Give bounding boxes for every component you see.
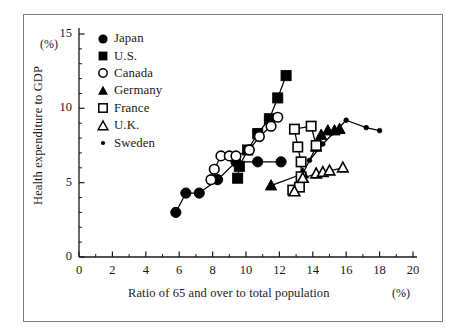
y-tick-label: 10	[46, 100, 72, 115]
legend-item-uk: U.K.	[92, 117, 222, 134]
data-point-sweden	[344, 118, 349, 123]
legend-marker-open-circle-icon	[92, 66, 114, 80]
data-point-japan	[276, 157, 286, 167]
legend-marker-open-triangle-icon	[92, 119, 114, 133]
legend-marker-filled-triangle-icon	[92, 84, 114, 98]
series-path	[176, 162, 281, 213]
data-point-japan	[181, 188, 191, 198]
x-tick-label: 12	[267, 263, 291, 278]
data-point-france	[293, 142, 302, 151]
data-point-uk	[338, 162, 349, 172]
data-point-us	[234, 161, 244, 171]
data-point-canada	[255, 132, 265, 142]
data-point-france	[296, 157, 305, 166]
data-point-canada	[209, 164, 219, 174]
data-point-japan	[171, 207, 181, 217]
data-point-canada	[245, 145, 255, 155]
x-axis-unit: (%)	[392, 286, 410, 301]
x-tick-label: 6	[167, 263, 191, 278]
legend-label: Canada	[114, 67, 153, 80]
data-point-sweden	[307, 158, 312, 163]
figure: Health expenditure to GDP (%) Ratio of 6…	[0, 0, 463, 335]
legend-label: Germany	[114, 84, 162, 97]
x-tick-label: 18	[368, 263, 392, 278]
data-point-us	[281, 71, 291, 81]
legend-marker-small-dot-icon	[92, 136, 114, 150]
data-point-france	[306, 121, 315, 130]
data-point-canada	[231, 151, 241, 161]
legend-label: U.K.	[114, 119, 139, 132]
data-point-france	[290, 124, 299, 133]
chart-legend: JapanU.S.CanadaGermanyFranceU.K.Sweden	[92, 30, 222, 152]
x-tick-label: 0	[67, 263, 91, 278]
data-point-france	[311, 141, 320, 150]
legend-label: France	[114, 102, 149, 115]
y-tick-label: 0	[46, 249, 72, 264]
legend-item-japan: Japan	[92, 30, 222, 47]
data-point-sweden	[377, 128, 382, 133]
legend-marker-open-square-icon	[92, 101, 114, 115]
x-tick-label: 14	[301, 263, 325, 278]
legend-item-sweden: Sweden	[92, 134, 222, 151]
legend-item-canada: Canada	[92, 65, 222, 82]
x-tick-label: 10	[234, 263, 258, 278]
series-line-japan	[176, 162, 281, 213]
legend-item-germany: Germany	[92, 82, 222, 99]
x-tick-label: 16	[334, 263, 358, 278]
x-tick-label: 20	[401, 263, 425, 278]
data-point-japan	[194, 188, 204, 198]
data-point-canada	[273, 112, 283, 122]
data-point-us	[273, 93, 283, 103]
legend-marker-filled-circle-icon	[92, 32, 114, 46]
legend-label: Japan	[114, 32, 144, 45]
x-tick-label: 2	[100, 263, 124, 278]
data-point-sweden	[364, 125, 369, 130]
series-points-france	[288, 121, 321, 194]
legend-item-us: U.S.	[92, 47, 222, 64]
y-axis-title: Health expenditure to GDP	[31, 36, 46, 236]
chart-canvas	[0, 0, 463, 335]
data-point-japan	[253, 157, 263, 167]
x-axis-title: Ratio of 65 and over to total population	[128, 286, 330, 301]
x-tick-label: 4	[134, 263, 158, 278]
data-point-canada	[266, 121, 276, 131]
legend-label: Sweden	[114, 137, 155, 150]
y-tick-label: 5	[46, 175, 72, 190]
data-point-us	[233, 173, 243, 183]
x-tick-label: 8	[201, 263, 225, 278]
legend-marker-filled-square-icon	[92, 49, 114, 63]
data-point-sweden	[320, 142, 325, 147]
legend-label: U.S.	[114, 50, 137, 63]
data-point-canada	[206, 175, 216, 185]
legend-item-france: France	[92, 100, 222, 117]
y-tick-label: 15	[46, 26, 72, 41]
